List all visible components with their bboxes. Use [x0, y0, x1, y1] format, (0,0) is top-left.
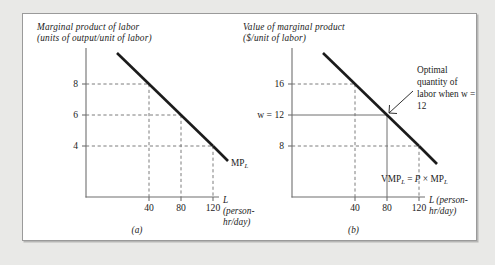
optimal-quantity-annotation: Optimal quantity of labor when w = 12	[417, 64, 478, 112]
x-ticks-a	[149, 197, 213, 201]
x-ticks-b	[355, 197, 419, 201]
y-tick-label-8: 8	[73, 78, 78, 89]
panel-b: Value of marginal product ($/unit of lab…	[229, 14, 478, 240]
vmpl-label-eq: =	[405, 174, 415, 184]
guide-lines-a	[86, 84, 213, 197]
vmpl-label-mp: MP	[430, 174, 443, 184]
wage-rate-label: w = 12	[257, 109, 284, 120]
x-tick-label-120: 120	[412, 202, 427, 213]
vmpl-label-main: VMP	[381, 174, 401, 184]
x-tick-label-80: 80	[176, 202, 186, 213]
vmpl-curve-ext	[419, 146, 437, 164]
y-ticks-b	[288, 84, 292, 146]
vmpl-label-mp-sub: L	[443, 178, 448, 185]
panel-a: Marginal product of labor (units of outp…	[23, 14, 251, 240]
y-tick-label-6: 6	[73, 109, 78, 120]
mpl-curve-ext	[213, 146, 228, 161]
y-tick-label-4: 4	[73, 140, 78, 151]
annotation-leader	[389, 91, 413, 113]
vmpl-label-times: ×	[421, 174, 431, 184]
vmpl-curve	[323, 53, 419, 146]
figure-frame: Marginal product of labor (units of outp…	[22, 13, 477, 241]
panel-b-caption: (b)	[229, 225, 495, 235]
x-tick-label-40: 40	[144, 202, 154, 213]
x-tick-label-120: 120	[206, 202, 221, 213]
y-tick-label-16: 16	[274, 78, 284, 89]
mpl-curve	[117, 53, 213, 146]
x-tick-label-40: 40	[350, 202, 360, 213]
x-tick-label-80: 80	[382, 202, 392, 213]
wage-guide-b	[292, 115, 387, 197]
x-axis-name-b: L (person- hr/day)	[429, 195, 468, 217]
panel-a-chart: 8 6 4 40 80 120 MPL	[23, 14, 251, 242]
vmpl-curve-label: VMPL = P × MPL	[381, 174, 448, 185]
y-ticks-a	[82, 84, 86, 146]
y-tick-label-8: 8	[279, 140, 284, 151]
